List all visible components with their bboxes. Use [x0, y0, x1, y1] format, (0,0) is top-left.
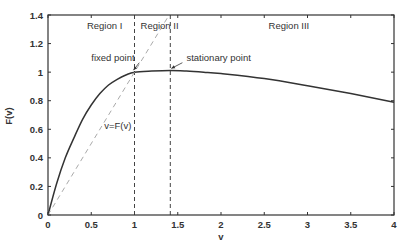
- plot-frame: [48, 15, 394, 215]
- series-line-identity: [48, 15, 169, 215]
- y-tick-label: 0.8: [30, 95, 43, 106]
- series-layer: [48, 15, 394, 215]
- x-tick-label: 0: [45, 219, 50, 230]
- y-tick-label: 1.4: [30, 10, 44, 21]
- x-tick-label: 1: [132, 219, 138, 230]
- x-tick-label: 3.5: [344, 219, 358, 230]
- x-tick-label: 3: [305, 219, 310, 230]
- series-line-F: [48, 70, 394, 215]
- x-tick-label: 4: [391, 219, 397, 230]
- x-tick-label: 2.5: [258, 219, 272, 230]
- x-tick-label: 0.5: [85, 219, 99, 230]
- annotation-label: Region I: [87, 20, 122, 31]
- y-tick-label: 0.6: [30, 124, 43, 135]
- annotation-label: Region III: [269, 20, 310, 31]
- y-tick-labels: 00.20.40.60.811.21.4: [30, 10, 44, 221]
- x-tick-labels: 00.511.522.533.54: [45, 219, 397, 230]
- y-axis-label: F(v): [3, 107, 14, 124]
- vlines-layer: [135, 15, 171, 215]
- x-tick-label: 1.5: [171, 219, 185, 230]
- y-tick-label: 0: [38, 210, 43, 221]
- annotation-label: v=F(v): [104, 120, 131, 131]
- ticks-layer: [48, 15, 394, 215]
- annotation-label: Region II: [141, 20, 179, 31]
- annotation-label: stationary point: [186, 52, 251, 63]
- x-axis-label: v: [218, 231, 224, 242]
- y-tick-label: 0.4: [30, 152, 44, 163]
- y-tick-label: 1: [38, 67, 44, 78]
- annotation-label: fixed point: [91, 52, 135, 63]
- x-tick-label: 2: [218, 219, 223, 230]
- y-tick-label: 0.2: [30, 181, 43, 192]
- y-tick-label: 1.2: [30, 38, 43, 49]
- chart: 00.511.522.533.54 00.20.40.60.811.21.4 v…: [0, 0, 413, 243]
- annotations: Region IRegion IIRegion IIIfixed pointst…: [87, 20, 309, 131]
